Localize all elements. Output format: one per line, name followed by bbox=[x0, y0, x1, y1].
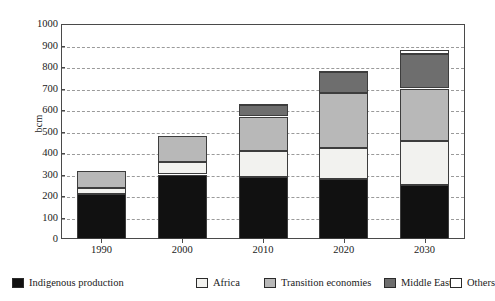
legend-swatch-icon bbox=[450, 278, 462, 288]
y-axis-tick-mark bbox=[61, 110, 65, 111]
y-axis-tick-label: 300 bbox=[14, 169, 58, 180]
bar-segment bbox=[319, 72, 368, 93]
legend-label: Transition economies bbox=[281, 278, 371, 289]
x-axis-tick-label: 2030 bbox=[395, 244, 455, 255]
legend-label: Africa bbox=[213, 278, 240, 289]
legend-label: Others bbox=[467, 278, 495, 289]
bar-group-2010 bbox=[239, 24, 288, 239]
chart-legend: Indigenous productionAfricaTransition ec… bbox=[12, 276, 470, 292]
y-axis-tick-mark bbox=[61, 46, 65, 47]
bar-segment bbox=[239, 117, 288, 151]
x-axis-tick-mark bbox=[182, 239, 183, 243]
y-axis-tick-label: 100 bbox=[14, 212, 58, 223]
bar-segment bbox=[319, 148, 368, 180]
bar-segment bbox=[239, 105, 288, 117]
bar-segment bbox=[77, 194, 126, 239]
legend-item[interactable]: Transition economies bbox=[264, 276, 371, 290]
legend-swatch-icon bbox=[12, 278, 24, 288]
y-axis-tick-mark bbox=[61, 89, 65, 90]
bar-segment bbox=[400, 185, 449, 239]
legend-swatch-icon bbox=[384, 278, 396, 288]
legend-label: Middle East bbox=[401, 278, 452, 289]
y-axis-tick-label: 400 bbox=[14, 148, 58, 159]
x-axis-tick-mark bbox=[344, 239, 345, 243]
y-axis-tick-label: 700 bbox=[14, 83, 58, 94]
x-axis-tick-label: 2010 bbox=[233, 244, 293, 255]
bar-segment bbox=[400, 54, 449, 89]
y-axis-tick-label: 900 bbox=[14, 40, 58, 51]
y-axis-tick-label: 500 bbox=[14, 126, 58, 137]
legend-item[interactable]: Others bbox=[450, 276, 495, 290]
y-axis-tick-label: 1000 bbox=[14, 19, 58, 30]
bars-layer bbox=[61, 24, 465, 239]
bar-segment bbox=[158, 136, 207, 161]
bar-segment bbox=[239, 151, 288, 177]
bar-group-1990 bbox=[77, 24, 126, 239]
y-axis-tick-label: 200 bbox=[14, 191, 58, 202]
y-axis-tick-mark bbox=[61, 196, 65, 197]
bar-segment bbox=[319, 179, 368, 239]
x-axis-tick-mark bbox=[101, 239, 102, 243]
bar-segment bbox=[158, 175, 207, 240]
x-axis-tick-label: 2000 bbox=[152, 244, 212, 255]
bar-segment bbox=[319, 93, 368, 147]
bar-group-2030 bbox=[400, 24, 449, 239]
y-axis-tick-mark bbox=[61, 132, 65, 133]
bar-segment bbox=[400, 50, 449, 53]
legend-swatch-icon bbox=[196, 278, 208, 288]
y-axis-tick-mark bbox=[61, 175, 65, 176]
bar-segment bbox=[319, 71, 368, 73]
x-axis-tick-mark bbox=[263, 239, 264, 243]
bar-segment bbox=[239, 104, 288, 106]
y-axis-tick-label: 0 bbox=[14, 234, 58, 245]
bar-segment bbox=[77, 171, 126, 188]
bar-segment bbox=[77, 188, 126, 194]
bar-segment bbox=[158, 162, 207, 175]
x-axis-tick-mark bbox=[425, 239, 426, 243]
bar-segment bbox=[400, 89, 449, 141]
bar-segment bbox=[239, 177, 288, 239]
y-axis-tick-label: 600 bbox=[14, 105, 58, 116]
legend-label: Indigenous production bbox=[29, 278, 124, 289]
x-axis-tick-label: 2020 bbox=[314, 244, 374, 255]
legend-item[interactable]: Indigenous production bbox=[12, 276, 124, 290]
x-axis-tick-label: 1990 bbox=[71, 244, 131, 255]
legend-item[interactable]: Africa bbox=[196, 276, 240, 290]
legend-swatch-icon bbox=[264, 278, 276, 288]
y-axis-tick-label: 800 bbox=[14, 62, 58, 73]
bar-group-2020 bbox=[319, 24, 368, 239]
bar-segment bbox=[400, 141, 449, 185]
bar-group-2000 bbox=[158, 24, 207, 239]
y-axis-tick-mark bbox=[61, 67, 65, 68]
y-axis-tick-labels: 01002003004005006007008009001000 bbox=[8, 24, 58, 239]
y-axis-tick-mark bbox=[61, 153, 65, 154]
legend-item[interactable]: Middle East bbox=[384, 276, 452, 290]
y-axis-tick-mark bbox=[61, 218, 65, 219]
